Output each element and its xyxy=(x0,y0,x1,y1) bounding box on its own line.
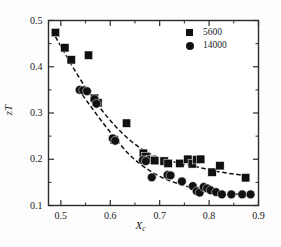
x-tick-label: 0.8 xyxy=(189,211,229,221)
legend-label-14000: 14000 xyxy=(203,39,227,52)
y-tick-label: 0.2 xyxy=(13,154,43,164)
y-tick-label: 0.4 xyxy=(13,62,43,72)
y-tick-label: 0.3 xyxy=(13,108,43,118)
legend-item-14000: 14000 xyxy=(186,39,227,52)
y-tick-label: 0.1 xyxy=(13,201,43,211)
x-tick-label: 0.9 xyxy=(239,211,279,221)
x-tick-label: 0.6 xyxy=(90,211,130,221)
x-axis-label: Xc xyxy=(0,219,281,233)
legend: 5600 14000 xyxy=(186,26,227,52)
legend-label-5600: 5600 xyxy=(203,26,222,39)
legend-item-5600: 5600 xyxy=(186,26,227,39)
square-marker-icon xyxy=(186,29,199,36)
x-axis-label-subscript: c xyxy=(142,224,145,233)
y-tick-label: 0.5 xyxy=(13,16,43,26)
x-tick-label: 0.5 xyxy=(41,211,81,221)
circle-marker-icon xyxy=(186,42,199,50)
figure-container: zT Xc 0.10.20.30.40.5 0.50.60.70.80.9 56… xyxy=(0,0,281,247)
x-tick-label: 0.7 xyxy=(140,211,180,221)
